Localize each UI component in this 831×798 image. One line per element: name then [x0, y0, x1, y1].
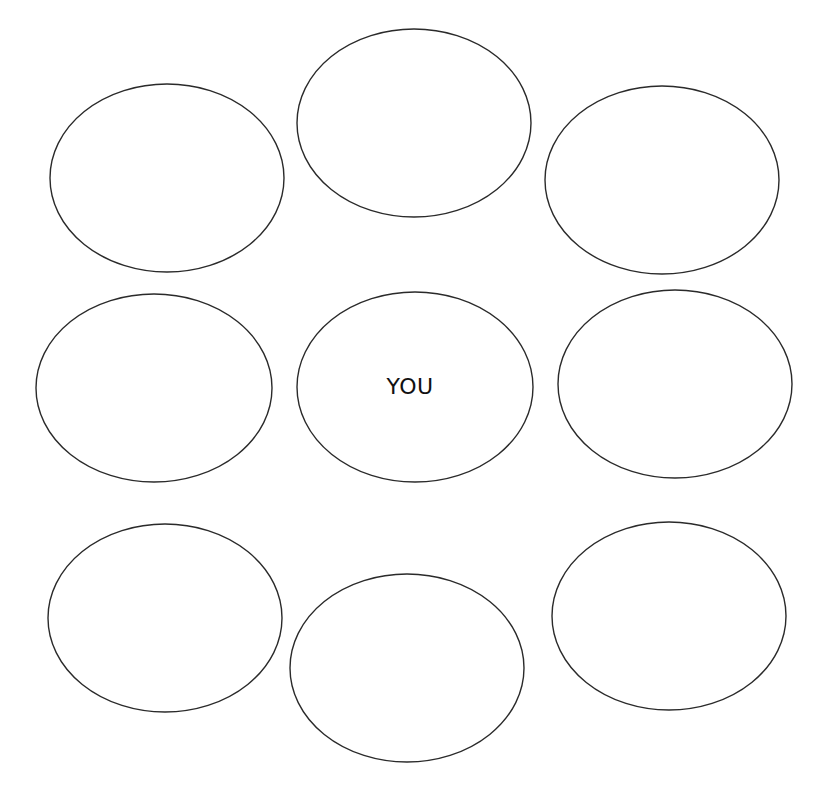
ellipse-bottom-right	[552, 522, 786, 710]
ellipse-bottom-center	[290, 574, 524, 762]
ellipse-bottom-left	[48, 524, 282, 712]
ellipse-top-left	[50, 84, 284, 272]
center-label-you: YOU	[386, 376, 433, 398]
ellipse-middle-right	[558, 290, 792, 478]
circle-diagram	[0, 0, 831, 798]
ellipse-top-right	[545, 86, 779, 274]
ellipse-middle-left	[36, 294, 272, 482]
ellipse-top-center	[297, 29, 531, 217]
